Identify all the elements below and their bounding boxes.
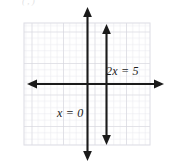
equation-label-2x-equals-5: 2x = 5 <box>106 65 139 77</box>
graph-figure: ( , ) <box>0 0 171 166</box>
equation-label-x-equals-0: x = 0 <box>57 107 83 119</box>
coordinate-plane-svg <box>0 0 171 166</box>
